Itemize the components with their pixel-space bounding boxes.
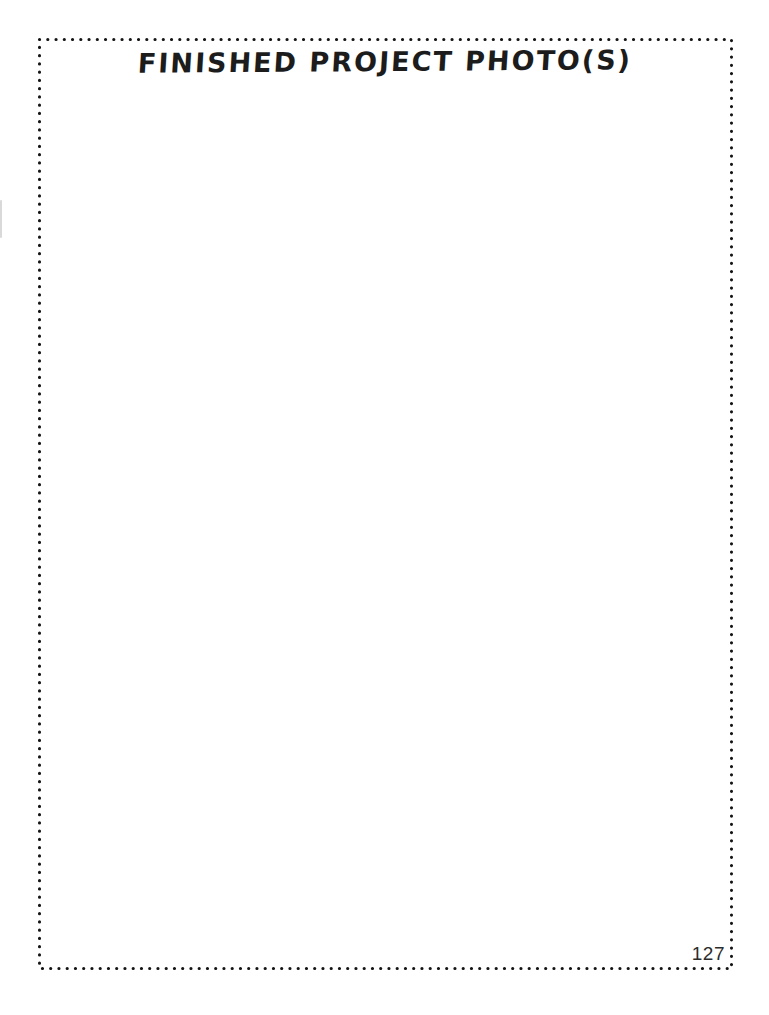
photo-placeholder-area [44, 90, 726, 930]
page-title: FINISHED PROJECT PHOTO(S) [37, 44, 733, 80]
journal-page: FINISHED PROJECT PHOTO(S) 127 [0, 0, 769, 1015]
page-number: 127 [692, 943, 725, 965]
